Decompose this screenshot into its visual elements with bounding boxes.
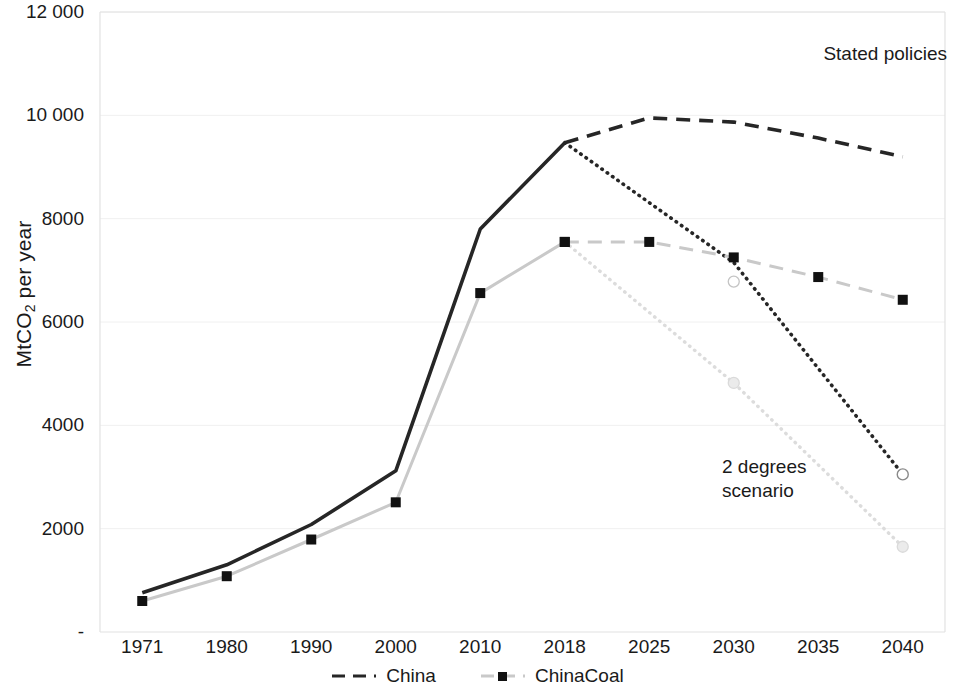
data-point-marker xyxy=(391,497,401,507)
plot-area xyxy=(0,0,955,690)
x-tick-label: 1990 xyxy=(290,636,332,658)
legend-label-chinacoal: ChinaCoal xyxy=(535,665,624,687)
x-tick-label: 2010 xyxy=(459,636,501,658)
legend-entry-chinacoal[interactable]: ChinaCoal xyxy=(480,665,624,687)
data-point-marker xyxy=(728,276,739,287)
data-point-marker xyxy=(729,252,739,262)
data-point-marker xyxy=(306,535,316,545)
x-tick-label: 2035 xyxy=(797,636,839,658)
series-line-china-history xyxy=(142,143,565,593)
data-point-marker xyxy=(728,377,739,388)
data-point-marker xyxy=(475,288,485,298)
series-line-china-2-degrees xyxy=(565,143,903,475)
data-point-marker xyxy=(898,295,908,305)
x-tick-label: 1980 xyxy=(206,636,248,658)
gridlines xyxy=(100,12,945,529)
x-tick-label: 2030 xyxy=(713,636,755,658)
x-tick-label: 2025 xyxy=(628,636,670,658)
series-line-chinacoal-history xyxy=(142,242,565,601)
x-tick-label: 1971 xyxy=(121,636,163,658)
data-point-marker xyxy=(897,469,908,480)
legend-swatch-chinacoal xyxy=(480,669,526,683)
legend-swatch-china xyxy=(331,669,377,683)
x-tick-label: 2040 xyxy=(882,636,924,658)
legend-label-china: China xyxy=(386,665,436,687)
series-line-china-stated-policies xyxy=(565,118,903,157)
chart-legend: China ChinaCoal xyxy=(0,662,955,690)
legend-entry-china[interactable]: China xyxy=(331,665,436,687)
data-point-marker xyxy=(560,237,570,247)
annotation-two-degrees-scenario: 2 degrees scenario xyxy=(722,455,807,503)
series-line-chinacoal-stated-policies xyxy=(565,242,903,300)
data-point-marker xyxy=(644,237,654,247)
data-point-marker xyxy=(137,596,147,606)
data-point-marker xyxy=(897,541,908,552)
data-point-marker xyxy=(222,571,232,581)
annotation-stated-policies: Stated policies xyxy=(823,42,947,66)
x-tick-label: 2000 xyxy=(375,636,417,658)
x-tick-label: 2018 xyxy=(544,636,586,658)
data-point-marker xyxy=(813,272,823,282)
chart-container: MtCO2 per year -200040006000800010 00012… xyxy=(0,0,955,690)
